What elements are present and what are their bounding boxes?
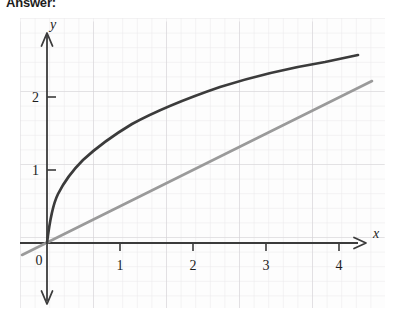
y-tick-label-1: 1 bbox=[32, 163, 39, 178]
x-axis-label: x bbox=[372, 226, 380, 241]
graph-panel: 1 2 3 4 1 2 0 x y bbox=[20, 18, 385, 308]
x-tick-label-3: 3 bbox=[263, 258, 270, 273]
y-axis-label: y bbox=[48, 18, 57, 32]
graph-canvas: 1 2 3 4 1 2 0 x y bbox=[20, 18, 385, 308]
x-tick-label-4: 4 bbox=[336, 258, 343, 273]
answer-label: Answer: bbox=[6, 0, 56, 10]
x-tick-label-2: 2 bbox=[190, 258, 197, 273]
origin-label: 0 bbox=[36, 253, 43, 268]
x-tick-label-1: 1 bbox=[117, 258, 124, 273]
y-tick-label-2: 2 bbox=[32, 90, 39, 105]
